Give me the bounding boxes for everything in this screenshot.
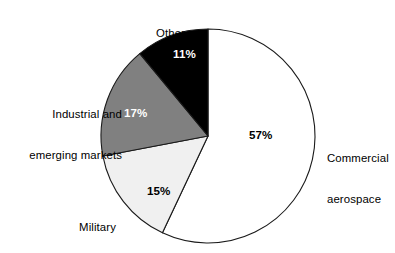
slice-label-commercial-line-1: Commercial <box>327 152 395 166</box>
slice-label-industrial-and-emerging-markets: Industrial and emerging markets <box>0 81 122 190</box>
slice-value-commercial-aerospace: 57% <box>249 128 273 141</box>
slice-label-military: Military <box>66 207 116 248</box>
slice-label-commercial-line-2: aerospace <box>327 193 395 207</box>
slice-label-industrial-line-1: Industrial and <box>0 108 122 122</box>
slice-value-other: 11% <box>173 47 196 60</box>
pie-chart: Other Industrial and emerging markets Mi… <box>0 0 395 253</box>
slice-label-industrial-line-2: emerging markets <box>0 149 122 163</box>
slice-label-other-text: Other <box>156 27 185 39</box>
slice-label-military-text: Military <box>79 221 116 233</box>
pie-slice-group <box>101 29 315 243</box>
slice-label-commercial-aerospace: Commercial aerospace <box>327 125 395 234</box>
slice-value-military: 15% <box>147 184 171 197</box>
slice-value-industrial-and-emerging-markets: 17% <box>124 106 148 119</box>
